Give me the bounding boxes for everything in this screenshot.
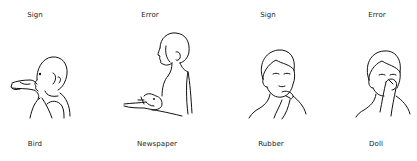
panel-4-bottom-label: Doll (369, 140, 383, 148)
front-person-finger-at-nose-icon (0, 0, 417, 161)
